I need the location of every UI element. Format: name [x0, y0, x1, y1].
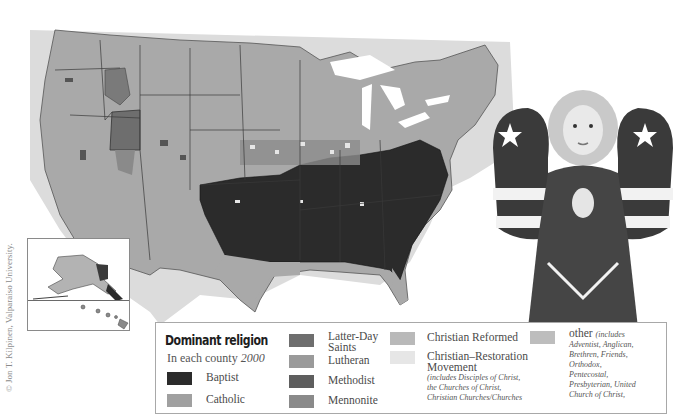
legend-item-latter-day-saints: Latter-DaySaints [289, 331, 378, 353]
legend-note: Church of Christ, [569, 390, 636, 400]
legend-label: Baptist [206, 372, 239, 383]
hawaii-islands [81, 305, 128, 329]
legend-swatch [390, 332, 415, 345]
left-wing-stripe-1 [493, 188, 553, 200]
legend-item-mennonite: Mennonite [289, 395, 378, 408]
legend-note: Pentecostal, [569, 370, 636, 380]
legend-note: the Churches of Christ, [427, 383, 528, 393]
legend-year: 2000 [241, 351, 265, 365]
legend-item-lutheran: Lutheran [289, 355, 370, 368]
legend-label: Methodist [328, 375, 375, 386]
legend-note: (includes Disciples of Christ, [427, 373, 528, 383]
legend-note: Christian Churches/Churches [427, 393, 528, 403]
angel-figurine-photo [488, 88, 678, 328]
legend-subtitle: In each county 2000 [167, 351, 265, 366]
legend-title: Dominant religion [165, 332, 268, 348]
angel-face [563, 105, 603, 155]
legend-label: Catholic [206, 394, 245, 405]
inset-divider [28, 300, 129, 301]
legend-swatch [289, 355, 314, 368]
lds-utah-region [110, 110, 140, 150]
legend-swatch [289, 395, 314, 408]
legend-swatch [390, 351, 415, 364]
legend-swatch [289, 334, 314, 347]
legend-swatch [530, 331, 555, 344]
aleutian-islands [33, 296, 68, 299]
legend-item-christian-reformed: Christian Reformed [390, 332, 518, 345]
legend: Dominant religion In each county 2000 Ba… [155, 322, 667, 414]
legend-note: Brethren, Friends, [569, 350, 636, 360]
legend-swatch [289, 375, 314, 388]
alaska-hawaii-inset [27, 238, 130, 331]
legend-label: Lutheran [328, 355, 370, 366]
praying-hands [572, 188, 594, 218]
legend-item-other: other (includes Adventist, Anglican, Bre… [530, 328, 636, 400]
legend-label: Christian Reformed [427, 332, 518, 343]
legend-swatch [167, 394, 192, 407]
legend-label: Mennonite [328, 395, 378, 406]
legend-note: Adventist, Anglican, [569, 340, 636, 350]
legend-note: Presbyterian, United [569, 380, 636, 390]
legend-item-catholic: Catholic [167, 394, 245, 407]
inset-map [28, 239, 129, 330]
angel-eye [589, 124, 593, 128]
legend-label-group: other (includes Adventist, Anglican, Bre… [569, 328, 636, 400]
alaska-panhandle [106, 284, 123, 301]
legend-item-baptist: Baptist [167, 372, 239, 385]
legend-label: Latter-DaySaints [328, 331, 378, 353]
angel-eye [573, 124, 577, 128]
right-wing-stripe-1 [613, 188, 673, 200]
legend-note: Orthodox, [569, 360, 636, 370]
legend-item-methodist: Methodist [289, 375, 375, 388]
legend-swatch [167, 372, 192, 385]
legend-item-christian-restoration: Christian–RestorationMovement (includes … [390, 351, 528, 403]
legend-label-group: Christian–RestorationMovement (includes … [427, 351, 528, 403]
